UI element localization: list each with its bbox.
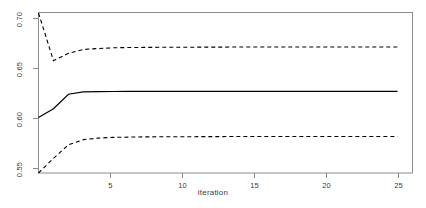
data-series-group [39,13,398,173]
y-tick-label-0: 0.70 [15,8,24,30]
series-estimate [39,91,398,117]
series-upper-bound [39,13,398,61]
plot-canvas [0,0,426,208]
plot-frame [39,13,413,174]
y-tick-label-3: 0.55 [15,158,24,180]
x-axis-ticks [111,173,399,178]
y-axis-ticks [33,19,38,169]
chart-figure: 0.70 0.65 0.60 0.55 5 10 15 20 25 iterat… [0,0,426,208]
y-tick-label-1: 0.65 [15,58,24,80]
x-axis-title: iteration [0,188,426,197]
series-lower-bound [39,137,398,173]
y-tick-label-2: 0.60 [15,108,24,130]
